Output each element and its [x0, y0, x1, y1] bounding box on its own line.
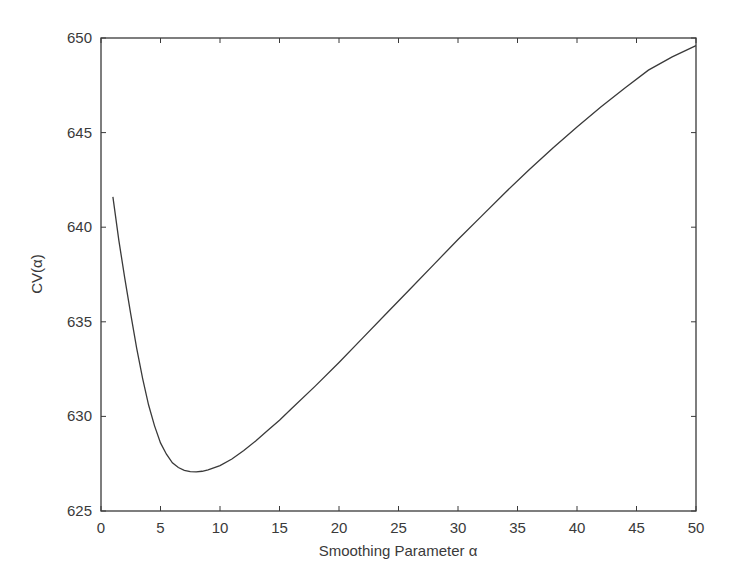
y-tick-label: 630	[67, 407, 92, 424]
y-tick-label: 635	[67, 313, 92, 330]
y-tick-label: 645	[67, 124, 92, 141]
x-tick-label: 25	[390, 519, 407, 536]
x-tick-label: 40	[569, 519, 586, 536]
x-tick-label: 45	[628, 519, 645, 536]
x-tick-label: 50	[688, 519, 705, 536]
y-tick-label: 625	[67, 502, 92, 519]
x-tick-label: 5	[156, 519, 164, 536]
y-axis-label: CV(α)	[28, 254, 45, 294]
x-tick-label: 0	[97, 519, 105, 536]
y-tick-label: 650	[67, 29, 92, 46]
y-tick-label: 640	[67, 218, 92, 235]
x-tick-label: 20	[331, 519, 348, 536]
cv-curve	[113, 46, 696, 472]
plot-frame	[101, 38, 696, 511]
x-axis-ticks: 05101520253035404550	[97, 38, 705, 536]
x-axis-label: Smoothing Parameter α	[319, 542, 478, 559]
cv-line-chart: 05101520253035404550 625630635640645650 …	[0, 0, 739, 588]
x-tick-label: 15	[271, 519, 288, 536]
x-tick-label: 10	[212, 519, 229, 536]
x-tick-label: 30	[450, 519, 467, 536]
x-tick-label: 35	[509, 519, 526, 536]
plot-border	[101, 38, 696, 511]
